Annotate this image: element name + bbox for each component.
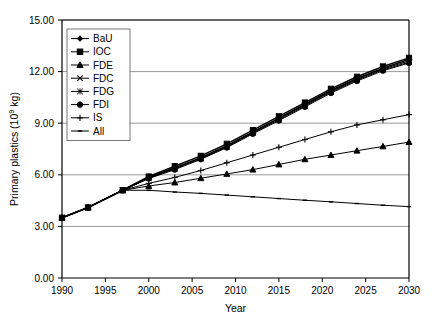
chart-background — [0, 0, 434, 322]
data-point-circle — [172, 167, 177, 172]
x-tick-label: 2000 — [138, 285, 161, 296]
y-tick-label: 0.00 — [35, 273, 55, 284]
y-axis-title: Primary plastics (109 kg) — [7, 92, 21, 206]
legend-label-BaU: BaU — [93, 33, 112, 44]
data-point-circle — [302, 104, 307, 109]
data-point-circle — [198, 157, 203, 162]
x-axis-title: Year — [225, 302, 247, 314]
legend-label-FDC: FDC — [93, 73, 114, 84]
legend-label-FDG: FDG — [93, 86, 114, 97]
data-point-circle — [77, 102, 82, 107]
x-tick-label: 2005 — [181, 285, 204, 296]
x-tick-label: 2020 — [311, 285, 334, 296]
x-tick-label: 2010 — [224, 285, 247, 296]
x-tick-label: 1990 — [51, 285, 74, 296]
y-tick-label: 6.00 — [35, 169, 55, 180]
legend-label-FDE: FDE — [93, 60, 113, 71]
x-axis-tick-labels: 199019952000200520102015202020252030 — [51, 285, 421, 296]
x-tick-label: 2025 — [355, 285, 378, 296]
chart-legend: BaUIOCFDEFDCFDGFDIISAll — [67, 29, 130, 141]
data-point-square — [77, 49, 82, 54]
x-tick-label: 2030 — [398, 285, 421, 296]
chart-figure: 199019952000200520102015202020252030 0.0… — [0, 0, 434, 322]
y-tick-label: 9.00 — [35, 118, 55, 129]
legend-label-IS: IS — [93, 112, 103, 123]
data-point-circle — [406, 60, 411, 65]
data-point-circle — [276, 118, 281, 123]
data-point-circle — [250, 131, 255, 136]
data-point-circle — [380, 68, 385, 73]
line-chart: 199019952000200520102015202020252030 0.0… — [0, 0, 434, 322]
data-point-circle — [354, 78, 359, 83]
y-tick-label: 3.00 — [35, 221, 55, 232]
legend-label-FDI: FDI — [93, 99, 109, 110]
data-point-circle — [328, 91, 333, 96]
y-tick-label: 15.00 — [29, 15, 54, 26]
x-tick-label: 1995 — [94, 285, 117, 296]
legend-label-IOC: IOC — [93, 46, 111, 57]
legend-label-All: All — [93, 126, 104, 137]
y-tick-label: 12.00 — [29, 66, 54, 77]
data-point-circle — [224, 145, 229, 150]
x-tick-label: 2015 — [268, 285, 291, 296]
